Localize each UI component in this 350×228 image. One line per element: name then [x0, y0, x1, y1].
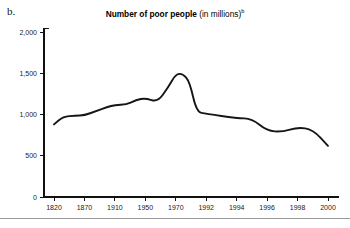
- x-tick-label: 1820: [46, 204, 62, 211]
- x-tick-label: 1994: [229, 204, 245, 211]
- y-tick-label: 1,500: [19, 70, 37, 77]
- x-tick-label: 1950: [138, 204, 154, 211]
- y-tick-label: 0: [33, 194, 37, 201]
- x-tick-label: 1910: [107, 204, 123, 211]
- x-tick-label: 1970: [168, 204, 184, 211]
- data-series-line: [54, 74, 328, 146]
- x-tick-label: 2000: [320, 204, 336, 211]
- y-axis: 05001,0001,5002,000: [19, 28, 49, 201]
- bottom-divider: [0, 218, 350, 219]
- y-tick-label: 500: [25, 152, 37, 159]
- x-tick-label: 1996: [259, 204, 275, 211]
- x-tick-label: 1992: [198, 204, 214, 211]
- figure-panel: b. Number of poor people (in millions)b …: [0, 0, 350, 228]
- line-chart-plot: 05001,0001,5002,000 18201870191019501970…: [0, 0, 350, 228]
- x-tick-label: 1998: [290, 204, 306, 211]
- y-tick-label: 1,000: [19, 111, 37, 118]
- y-tick-label: 2,000: [19, 29, 37, 36]
- x-tick-label: 1870: [77, 204, 93, 211]
- x-axis: 1820187019101950197019921994199619982000: [44, 197, 339, 211]
